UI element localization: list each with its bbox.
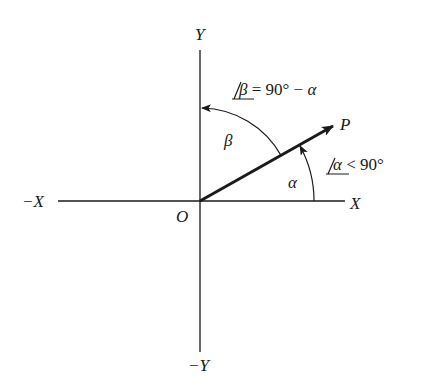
beta-arc xyxy=(202,108,281,155)
beta-relation-rest: = 90° − xyxy=(247,80,307,99)
neg-x-label: −X xyxy=(22,192,44,211)
beta-relation: β = 90° − α xyxy=(232,80,317,99)
beta-relation-tail: α xyxy=(307,80,317,99)
origin-label: O xyxy=(176,207,188,226)
diagram-canvas: Y −Y X −X O P β α β = 90° − α α < 90° xyxy=(0,0,423,392)
pos-y-label: Y xyxy=(195,25,206,44)
alpha-relation: α < 90° xyxy=(326,155,384,174)
beta-symbol: β xyxy=(223,131,233,150)
neg-y-label: −Y xyxy=(188,356,210,375)
alpha-symbol: α xyxy=(288,173,298,192)
alpha-relation-rest: < 90° xyxy=(342,155,384,174)
svg-text:β = 90° − α: β = 90° − α xyxy=(238,80,317,99)
alpha-arc xyxy=(300,146,314,201)
pos-x-label: X xyxy=(349,194,361,213)
svg-text:α < 90°: α < 90° xyxy=(333,155,384,174)
vector-p-label: P xyxy=(339,115,350,134)
